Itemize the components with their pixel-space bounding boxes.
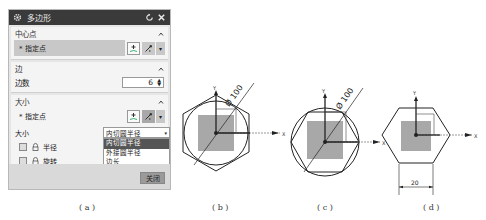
section-size-label: 大小 (15, 96, 158, 107)
size-type-label: 大小 (15, 128, 95, 138)
section-size: 大小 * 指定点 ▾ 大小 内切圆半径 (11, 95, 168, 171)
y-axis-label: Y (412, 90, 417, 96)
point-constructor-icon (129, 112, 138, 121)
dimension-label: Ø 100 (223, 83, 245, 108)
snap-point-icon (144, 44, 153, 53)
chevron-up-icon[interactable] (158, 31, 164, 37)
point-dialog-button[interactable] (127, 42, 140, 55)
close-icon[interactable] (157, 13, 166, 22)
snap-options-dropdown[interactable]: ▾ (156, 42, 165, 55)
caption-a: ( a ) (79, 203, 95, 212)
dialog-titlebar: 多边形 (9, 10, 170, 25)
snap-point-button[interactable] (142, 42, 155, 55)
side-count-value: 6 (148, 78, 153, 87)
dimension-label: Ø 100 (333, 86, 355, 111)
specify-point-field[interactable]: * 指定点 (14, 40, 125, 56)
close-button[interactable]: 关闭 (140, 172, 165, 184)
y-axis-label: Y (321, 88, 326, 94)
size-specify-point-field[interactable]: * 指定点 (14, 108, 125, 124)
polygon-dialog: 多边形 中心点 * 指定点 (8, 9, 171, 190)
dialog-title: 多边形 (27, 12, 142, 23)
size-type-selected-value: 内切圆半径 (106, 128, 164, 138)
figure-c-circumscribed: Ø 100 X Y (285, 90, 390, 205)
caption-b: ( b ) (212, 203, 228, 212)
y-arrow-icon (414, 96, 418, 101)
figure-b-inscribed: Ø 100 X Y (180, 85, 290, 205)
snap-point-icon (144, 112, 153, 121)
size-type-select[interactable]: 内切圆半径 ▾ (103, 127, 170, 138)
side-count-label: 边数 (15, 77, 122, 88)
section-center-point: 中心点 * 指定点 ▾ (11, 27, 168, 60)
chevron-up-icon[interactable] (158, 99, 164, 105)
caption-d: ( d ) (423, 203, 439, 212)
option-circumscribed-radius[interactable]: 外接圆半径 (104, 149, 169, 159)
center-point-row: * 指定点 ▾ (14, 40, 165, 56)
size-snap-options-dropdown[interactable]: ▾ (156, 110, 165, 123)
radius-label: 半径 (43, 142, 57, 152)
side-count-spinner[interactable]: 6 ▲▼ (122, 77, 164, 88)
lock-icon[interactable] (32, 143, 39, 151)
section-sides-header[interactable]: 边 (11, 62, 168, 75)
x-arrow-icon (465, 133, 472, 137)
x-axis-label: X (474, 133, 478, 139)
dimension-label: 20 (411, 179, 419, 186)
section-sides: 边 边数 6 ▲▼ (11, 62, 168, 93)
x-arrow-icon (373, 140, 380, 144)
figure-d-side-length: 20 X Y (390, 95, 486, 195)
size-point-dialog-button[interactable] (127, 110, 140, 123)
size-snap-point-button[interactable] (142, 110, 155, 123)
size-point-row: * 指定点 ▾ (14, 108, 165, 124)
caption-c: ( c ) (317, 203, 333, 212)
spinner-arrows-icon[interactable]: ▲▼ (157, 78, 161, 86)
gear-icon (13, 13, 22, 22)
x-arrow-icon (272, 131, 279, 135)
option-inscribed-radius[interactable]: 内切圆半径 (104, 139, 169, 149)
radius-checkbox[interactable] (19, 143, 27, 151)
radius-row: 半径 (19, 142, 57, 152)
chevron-up-icon[interactable] (158, 66, 164, 72)
dialog-footer: 关闭 (9, 164, 170, 189)
reset-icon[interactable] (145, 13, 154, 22)
section-size-header[interactable]: 大小 (11, 95, 168, 108)
section-center-point-label: 中心点 (15, 28, 158, 39)
y-axis-label: Y (212, 85, 217, 91)
side-count-row: 边数 6 ▲▼ (11, 75, 168, 92)
origin-point (414, 133, 418, 137)
point-constructor-icon (129, 44, 138, 53)
section-center-point-header[interactable]: 中心点 (11, 27, 168, 40)
chevron-down-icon[interactable]: ▾ (164, 130, 169, 136)
section-sides-label: 边 (15, 63, 158, 74)
